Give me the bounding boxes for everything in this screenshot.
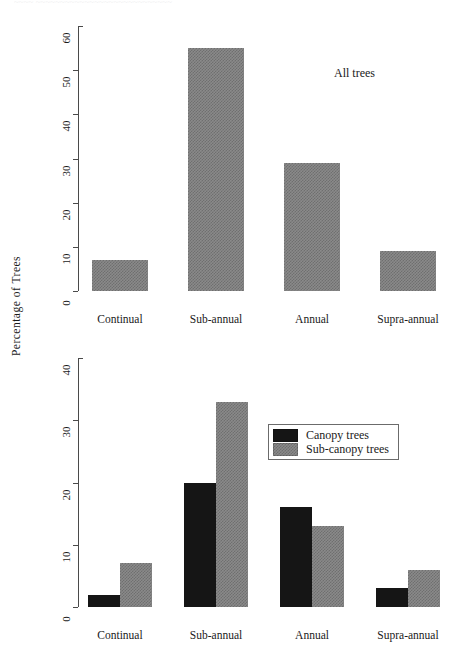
chart-legend: Canopy treesSub-canopy trees [268,424,399,460]
y-axis-label: Percentage of Trees [10,221,22,391]
y-axis-tick-label: 40 [60,357,72,383]
bar [88,595,120,607]
y-axis-line [78,26,79,291]
bar [184,483,216,608]
x-axis-category-label: Continual [97,629,142,641]
x-axis-category-label: Supra-annual [377,313,438,325]
plot-area-bottom: 010203040ContinualSub-annualAnnualSupra-… [78,358,462,607]
plot-area-top: 0102030405060ContinualSub-annualAnnualSu… [78,26,462,291]
x-axis-category-label: Annual [295,629,329,641]
annotation-all-trees: All trees [334,66,375,81]
cutoff-header-text: ~~~~ ~~~~~~~~~~~~~~~~~~~~~~~~~~~~ [14,0,314,5]
y-axis-tick [73,203,78,204]
y-axis-tick [73,607,78,608]
legend-item: Canopy trees [273,428,389,442]
legend-item: Sub-canopy trees [273,442,389,456]
y-axis-tick [73,114,78,115]
bar [216,402,248,607]
y-axis-tick-label: 10 [60,246,72,272]
y-axis-tick-label: 0 [60,290,72,316]
legend-label: Canopy trees [306,429,369,441]
legend-swatch [273,429,298,442]
y-axis-tick [73,420,78,421]
bar [312,526,344,607]
y-axis-tick [73,70,78,71]
bar [280,507,312,607]
y-axis-tick [73,545,78,546]
bar [408,570,440,607]
figure-root: ~~~~ ~~~~~~~~~~~~~~~~~~~~~~~~~~~~ Percen… [0,0,470,670]
y-axis-tick-label: 0 [60,606,72,632]
x-axis-category-label: Continual [97,313,142,325]
y-axis-tick [73,247,78,248]
y-axis-tick [73,291,78,292]
y-axis-line [78,358,79,607]
bar [92,260,148,291]
x-axis-category-label: Supra-annual [377,629,438,641]
legend-label: Sub-canopy trees [306,443,389,455]
bar [120,563,152,607]
x-axis-category-label: Annual [295,313,329,325]
y-axis-tick [73,159,78,160]
chart-panel-canopy-subcanopy: 010203040ContinualSub-annualAnnualSupra-… [78,358,462,607]
bar [376,588,408,607]
y-axis-tick-label: 50 [60,69,72,95]
y-axis-tick-label: 20 [60,202,72,228]
y-axis-tick-label: 30 [60,158,72,184]
y-axis-tick-label: 30 [60,419,72,445]
x-axis-category-label: Sub-annual [190,629,242,641]
y-axis-tick-label: 10 [60,544,72,570]
bar [380,251,436,291]
x-axis-category-label: Sub-annual [190,313,242,325]
legend-swatch [273,443,298,456]
y-axis-tick [78,358,83,359]
chart-panel-all-trees: 0102030405060ContinualSub-annualAnnualSu… [78,26,462,291]
bar [188,48,244,291]
bar [284,163,340,291]
y-axis-tick [73,483,78,484]
y-axis-tick-label: 60 [60,25,72,51]
y-axis-tick [78,26,83,27]
y-axis-tick-label: 40 [60,113,72,139]
y-axis-tick-label: 20 [60,482,72,508]
